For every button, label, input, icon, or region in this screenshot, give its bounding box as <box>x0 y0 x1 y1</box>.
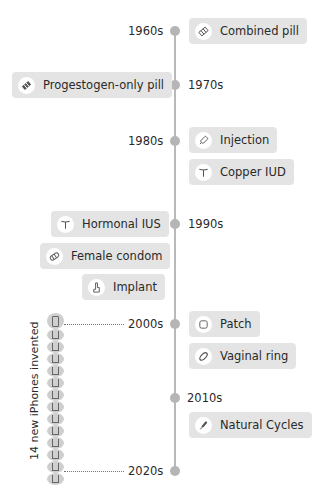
iphone-icon <box>47 341 64 353</box>
method-card-hormonal-ius: Hormonal IUS <box>51 211 169 237</box>
timeline-dot-2020s <box>170 466 180 476</box>
method-card-implant: Implant <box>82 274 165 300</box>
method-card-natural-cycles: Natural Cycles <box>189 412 312 438</box>
patch-icon <box>195 316 212 333</box>
decade-label-1980s: 1980s <box>128 134 163 148</box>
iphone-icon <box>47 365 64 377</box>
method-label: Implant <box>113 280 157 294</box>
iud-icon <box>195 164 212 181</box>
implant-arm-icon <box>88 279 105 296</box>
iphone-icon <box>47 437 64 449</box>
method-label: Vaginal ring <box>220 349 288 363</box>
iphone-icon <box>47 377 64 389</box>
method-label: Female condom <box>71 249 162 263</box>
method-label: Progestogen-only pill <box>43 78 164 92</box>
decade-label-1960s: 1960s <box>128 24 163 38</box>
iphone-icon <box>47 461 64 473</box>
pill-pack-icon <box>195 23 212 40</box>
method-card-combined-pill: Combined pill <box>189 18 307 44</box>
iphone-icon <box>47 425 64 437</box>
syringe-icon <box>195 132 212 149</box>
iud-icon <box>57 216 74 233</box>
method-card-female-condom: Female condom <box>40 243 170 269</box>
decade-label-2010s: 2010s <box>187 391 222 405</box>
decade-label-1990s: 1990s <box>188 217 223 231</box>
timeline-dot-2000s <box>170 319 180 329</box>
method-card-vaginal-ring: Vaginal ring <box>189 343 296 369</box>
method-card-patch: Patch <box>189 311 260 337</box>
method-label: Patch <box>220 317 252 331</box>
iphone-icon <box>47 401 64 413</box>
iphone-icon <box>47 389 64 401</box>
decade-label-2000s: 2000s <box>128 317 163 331</box>
timeline-dot-2010s <box>170 393 180 403</box>
iphone-icon <box>47 413 64 425</box>
method-label: Combined pill <box>220 24 299 38</box>
iphone-icon <box>47 353 64 365</box>
iphone-icon <box>47 473 64 485</box>
pill-pack-icon <box>18 77 35 94</box>
method-card-progestogen-only-pill: Progestogen-only pill <box>12 72 172 98</box>
method-card-injection: Injection <box>189 127 277 153</box>
method-label: Copper IUD <box>220 165 286 179</box>
method-label: Hormonal IUS <box>82 217 161 231</box>
condom-icon <box>46 248 63 265</box>
iphone-icon <box>47 313 64 329</box>
iphone-connector-2000s <box>64 324 124 325</box>
iphone-icon <box>47 449 64 461</box>
iphone-icon <box>47 329 64 341</box>
method-label: Injection <box>220 133 269 147</box>
timeline-axis <box>174 31 176 471</box>
timeline-dot-1990s <box>170 219 180 229</box>
decade-label-2020s: 2020s <box>128 464 163 478</box>
thermometer-icon <box>195 417 212 434</box>
timeline-dot-1960s <box>170 26 180 36</box>
method-card-copper-iud: Copper IUD <box>189 159 294 185</box>
timeline-dot-1980s <box>170 136 180 146</box>
iphone-stack <box>47 313 65 485</box>
decade-label-1970s: 1970s <box>188 78 223 92</box>
iphone-connector-2020s <box>64 471 124 472</box>
ring-icon <box>195 348 212 365</box>
iphones-annotation-label: 14 new iPhones invented <box>28 320 41 460</box>
method-label: Natural Cycles <box>220 418 304 432</box>
